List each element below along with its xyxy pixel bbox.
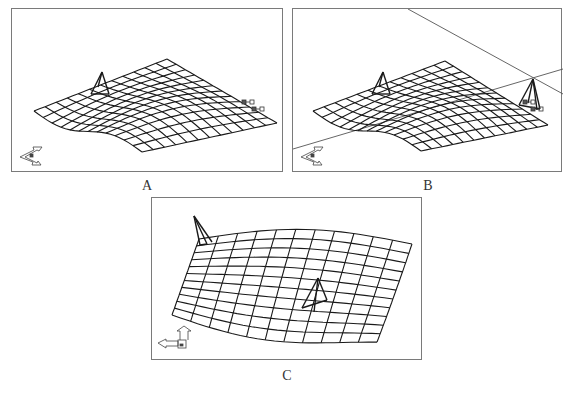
pyramid-handle-icon[interactable] [519, 79, 540, 110]
mesh-surface-a [12, 9, 284, 173]
pyramid-handle-icon[interactable] [302, 278, 327, 312]
pyramid-handle-icon[interactable] [194, 216, 212, 245]
mesh-surface-b [293, 9, 563, 173]
panel-a [11, 8, 283, 172]
axis-triad-icon [301, 147, 323, 165]
node-marker-icon[interactable] [242, 100, 254, 104]
panel-c [151, 197, 422, 360]
caption-b: B [418, 178, 438, 194]
mesh-grid [313, 61, 548, 151]
mesh-grid [34, 59, 277, 152]
node-marker-icon[interactable] [252, 107, 264, 111]
caption-c: C [277, 368, 297, 384]
mesh-grid [172, 229, 412, 343]
axis-triad-icon [20, 147, 42, 165]
panel-b [292, 8, 562, 172]
caption-a: A [137, 178, 157, 194]
mesh-surface-c [152, 198, 423, 361]
axis-triad-icon [158, 326, 191, 348]
